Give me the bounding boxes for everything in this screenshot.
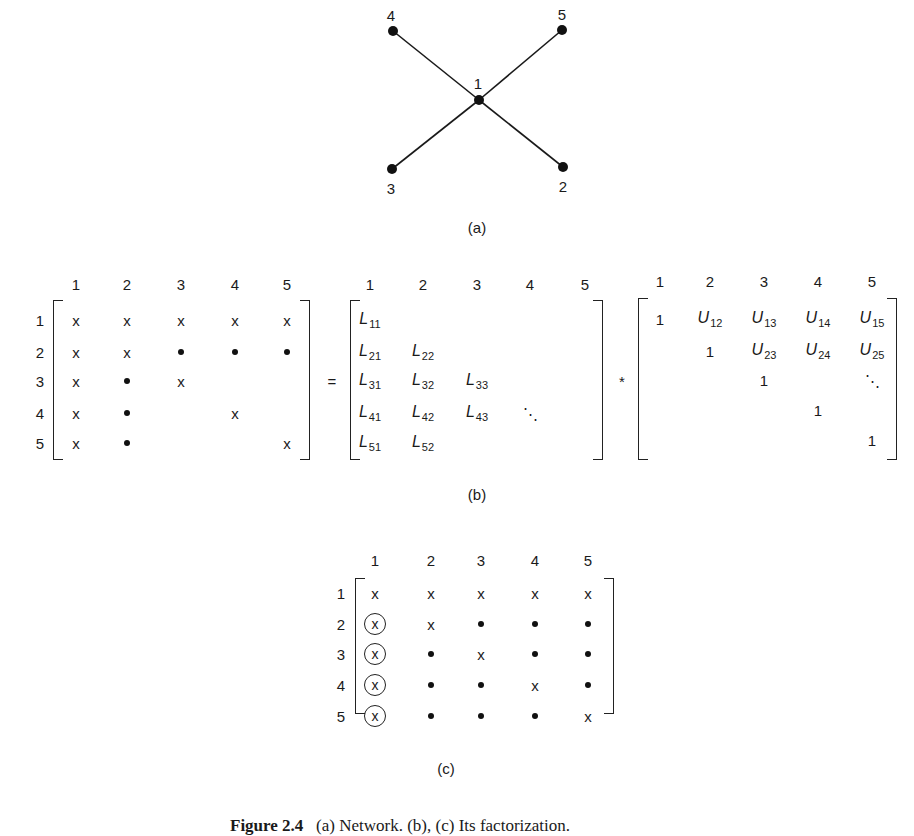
part_b.A-row-header: 5 [36, 436, 44, 451]
part_c-cell-entry: x [531, 586, 539, 601]
part_c-cell-entry: x [427, 617, 435, 632]
part_b.U-cell-entry: U13 [752, 310, 777, 329]
part_b.A-cell-entry: x [123, 345, 131, 360]
part_b.L-col-header: 1 [366, 277, 374, 292]
part_b.U-cell-ellipsis: ⋱ [865, 373, 880, 388]
part_b.A-cell-entry: x [123, 313, 131, 328]
part_b.U-cell-entry: U14 [806, 310, 831, 329]
network-graph [0, 0, 914, 240]
part_b.U-cell-entry: 1 [868, 433, 876, 448]
node-label-5: 5 [558, 7, 566, 22]
part_c-cell-fill-dot [532, 713, 538, 719]
part-c-label: (c) [437, 761, 455, 776]
part_c-cell-fill-in-circle: x [364, 674, 386, 696]
part_b.A-cell-entry: x [72, 436, 80, 451]
node-2 [558, 162, 568, 172]
caption-label: Figure 2.4 [230, 816, 303, 835]
part_b.U-cell-entry: U15 [860, 310, 885, 329]
part_c-cell-fill-dot [478, 713, 484, 719]
node-label-2: 2 [559, 179, 567, 194]
matrix-c-right-bracket [604, 578, 614, 714]
part_b.U-cell-entry: 1 [706, 344, 714, 359]
part_c-col-header: 4 [531, 553, 539, 568]
part_b.U-col-header: 2 [706, 274, 714, 289]
part_c-cell-entry: x [584, 709, 592, 724]
part_c-row-header: 5 [337, 709, 345, 724]
part_b.A-cell-entry: x [177, 313, 185, 328]
matrix-a-left-bracket [53, 300, 63, 460]
edge-1-3 [392, 100, 479, 169]
edge-1-5 [479, 30, 562, 100]
part_b.A-cell-entry: x [177, 374, 185, 389]
part_b.A-cell-entry: x [72, 406, 80, 421]
matrix-c-left-bracket [355, 578, 365, 714]
part_c-cell-fill-dot [428, 651, 434, 657]
part_b.L-col-header: 2 [419, 277, 427, 292]
part_b.U-cell-entry: U12 [698, 310, 723, 329]
part_c-col-header: 5 [584, 553, 592, 568]
part_c-cell-fill-dot [428, 713, 434, 719]
part_c-cell-fill-dot [428, 682, 434, 688]
part_b.L-col-header: 3 [473, 277, 481, 292]
part_b.L-cell-ellipsis: ⋱ [523, 406, 538, 421]
figure-caption: Figure 2.4 (a) Network. (b), (c) Its fac… [230, 816, 570, 836]
part_c-cell-fill-dot [585, 621, 591, 627]
part_b.A-cell-entry: x [72, 374, 80, 389]
part_c-cell-entry: x [477, 647, 485, 662]
part_b.L-cell-entry: L11 [359, 311, 380, 330]
part_b.A-cell-fill-dot [124, 410, 130, 416]
matrix-l-right-bracket [593, 300, 603, 460]
part_c-row-header: 1 [337, 586, 345, 601]
edge-1-4 [393, 31, 479, 100]
part_b.A-col-header: 3 [177, 277, 185, 292]
part_c-col-header: 3 [477, 553, 485, 568]
matrix-u-right-bracket [887, 298, 897, 460]
part_b.A-col-header: 4 [231, 277, 239, 292]
part_b.A-cell-entry: x [283, 313, 291, 328]
part_c-cell-entry: x [531, 678, 539, 693]
part_c-cell-fill-dot [532, 651, 538, 657]
matrix-u-left-bracket [638, 298, 648, 460]
part_c-col-header: 2 [427, 553, 435, 568]
part_b.A-row-header: 1 [36, 313, 44, 328]
part_b.L-cell-entry: L42 [412, 404, 434, 423]
node-5 [557, 25, 567, 35]
part_b.A-cell-fill-dot [178, 349, 184, 355]
part_c-cell-fill-dot [585, 651, 591, 657]
part-a-label: (a) [468, 220, 486, 235]
part_b.L-cell-entry: L43 [466, 404, 488, 423]
part_b.U-col-header: 4 [814, 274, 822, 289]
part_b.L-cell-entry: L41 [359, 404, 381, 423]
part_b.U-cell-entry: 1 [814, 403, 822, 418]
part_b.U-cell-entry: U24 [806, 342, 831, 361]
part_b.L-cell-entry: L52 [412, 434, 434, 453]
part_c-cell-entry: x [427, 586, 435, 601]
part_b.U-col-header: 3 [760, 274, 768, 289]
part_c-row-header: 3 [337, 647, 345, 662]
part_c-row-header: 2 [337, 617, 345, 632]
part_c-row-header: 4 [337, 678, 345, 693]
node-4 [388, 26, 398, 36]
part_b.U-cell-entry: U25 [860, 342, 885, 361]
node-1 [474, 95, 484, 105]
part_b.U-col-header: 1 [656, 274, 664, 289]
part_c-cell-entry: x [477, 586, 485, 601]
part_b.A-cell-entry: x [72, 313, 80, 328]
part_c-cell-fill-dot [478, 682, 484, 688]
part_b.A-col-header: 5 [283, 277, 291, 292]
node-label-4: 4 [387, 8, 395, 23]
part_c-cell-fill-in-circle: x [364, 643, 386, 665]
part_b.A-row-header: 3 [36, 374, 44, 389]
part_b.A-cell-fill-dot [232, 349, 238, 355]
part_c-cell-fill-in-circle: x [364, 705, 386, 727]
part_b.L-cell-entry: L51 [359, 434, 381, 453]
edge-1-2 [479, 100, 563, 167]
part_b.A-row-header: 4 [36, 406, 44, 421]
part_b.L-col-header: 4 [526, 277, 534, 292]
part_c-cell-entry: x [584, 586, 592, 601]
part_b.U-cell-entry: 1 [656, 312, 664, 327]
part_b.L-cell-entry: L32 [412, 372, 434, 391]
part_c-cell-fill-dot [585, 682, 591, 688]
part_b.L-cell-entry: L21 [359, 343, 381, 362]
part-b-label: (b) [468, 487, 486, 502]
